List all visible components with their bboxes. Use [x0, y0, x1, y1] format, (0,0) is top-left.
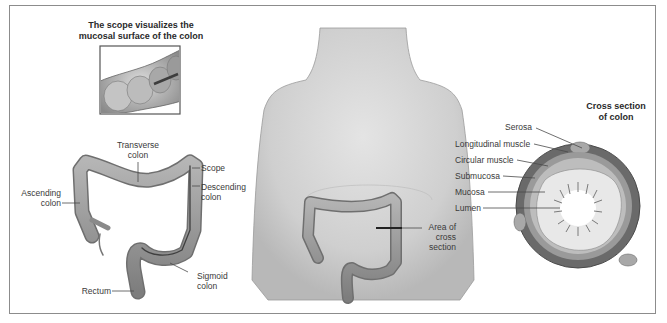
- anatomy-illustration: [0, 0, 667, 323]
- scope-inset: [98, 46, 185, 116]
- label-rectum: Rectum: [70, 286, 111, 296]
- label-text: colon: [201, 192, 246, 202]
- label-text: cross: [422, 232, 456, 242]
- label-serosa: Serosa: [505, 122, 532, 132]
- inset-title-line1: The scope visualizes the: [76, 20, 206, 31]
- label-text: Descending: [201, 182, 246, 192]
- label-submucosa: Submucosa: [455, 171, 500, 181]
- label-text: Ascending: [10, 188, 61, 198]
- label-circular-muscle: Circular muscle: [455, 155, 514, 165]
- label-longitudinal-muscle: Longitudinal muscle: [455, 139, 530, 149]
- cross-section-illustration: [514, 142, 640, 268]
- label-text: Area of: [422, 222, 456, 232]
- label-ascending-colon: Ascending colon: [10, 188, 61, 208]
- title-line: of colon: [580, 112, 652, 123]
- label-text: colon: [10, 198, 61, 208]
- title-line: Cross section: [580, 101, 652, 112]
- label-scope: Scope: [201, 163, 225, 173]
- torso-illustration: [252, 28, 474, 300]
- inset-title: The scope visualizes the mucosal surface…: [76, 20, 206, 42]
- label-text: colon: [197, 281, 228, 291]
- label-transverse-colon: Transverse colon: [111, 140, 165, 160]
- label-text: section: [422, 242, 456, 252]
- inset-title-line2: mucosal surface of the colon: [76, 31, 206, 42]
- label-text: Sigmoid: [197, 271, 228, 281]
- label-area-of-cross-section: Area of cross section: [422, 222, 456, 252]
- label-lumen: Lumen: [455, 203, 481, 213]
- label-mucosa: Mucosa: [455, 187, 485, 197]
- label-sigmoid-colon: Sigmoid colon: [197, 271, 228, 291]
- label-text: Transverse: [111, 140, 165, 150]
- label-descending-colon: Descending colon: [201, 182, 246, 202]
- cross-section-title: Cross section of colon: [580, 101, 652, 123]
- label-text: colon: [111, 150, 165, 160]
